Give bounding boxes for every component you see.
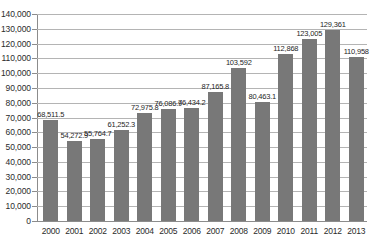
y-axis-tick xyxy=(32,162,37,163)
y-axis-tick-label: 0 xyxy=(26,216,31,226)
x-axis-labels: (年) 200020012002200320042005200620072008… xyxy=(37,226,367,242)
y-axis-tick xyxy=(32,147,37,148)
bar-slot: 129,361 xyxy=(321,14,345,221)
bar[interactable] xyxy=(161,109,176,221)
bar[interactable] xyxy=(302,39,317,221)
y-axis-tick xyxy=(32,14,37,15)
x-axis-tick-label: 2013 xyxy=(345,226,369,236)
y-axis-tick-label: 50,000 xyxy=(6,142,31,152)
y-axis-tick xyxy=(32,221,37,222)
bar-slot: 103,592 xyxy=(227,14,251,221)
y-axis-tick-label: 120,000 xyxy=(1,39,31,49)
y-axis-tick xyxy=(32,177,37,178)
bar-chart: 140,000130,000120,000110,000100,00090,00… xyxy=(0,0,374,244)
bar-value-label: 80,463.1 xyxy=(248,92,276,101)
y-axis-tick-label: 100,000 xyxy=(1,68,31,78)
y-axis-tick xyxy=(32,88,37,89)
bar-value-label: 103,592 xyxy=(226,58,252,67)
bar[interactable] xyxy=(67,141,82,221)
bar-slot: 55,764.7 xyxy=(86,14,110,221)
y-axis-tick-label: 40,000 xyxy=(6,157,31,167)
bar-slot: 87,165.8 xyxy=(204,14,228,221)
bar[interactable] xyxy=(349,57,364,221)
bar[interactable] xyxy=(184,108,199,221)
bar[interactable] xyxy=(90,139,105,221)
bar-slot: 112,868 xyxy=(274,14,298,221)
bar-slot: 61,252.3 xyxy=(110,14,134,221)
bar[interactable] xyxy=(278,54,293,221)
gridline xyxy=(37,221,367,222)
bar-slot: 110,958 xyxy=(345,14,369,221)
bar-slot: 76,434.2 xyxy=(180,14,204,221)
bar-value-label: 112,868 xyxy=(273,44,298,53)
y-axis-tick-label: 70,000 xyxy=(6,113,31,123)
bar[interactable] xyxy=(325,30,340,221)
bar[interactable] xyxy=(255,102,270,221)
plot-area: 68,511.554,272.955,764.761,252.372,975.8… xyxy=(37,14,367,221)
x-axis-tick-label: 2005 xyxy=(157,226,181,236)
y-axis-tick xyxy=(32,73,37,74)
y-axis-tick-label: 140,000 xyxy=(1,9,31,19)
x-axis-tick-label: 2008 xyxy=(227,226,251,236)
bar-value-label: 110,958 xyxy=(344,47,369,56)
x-axis-tick-label: 2004 xyxy=(133,226,157,236)
y-axis-tick xyxy=(32,44,37,45)
x-axis-tick-label: 2007 xyxy=(204,226,228,236)
bar[interactable] xyxy=(43,120,58,221)
bar-value-label: 87,165.8 xyxy=(201,82,229,91)
y-axis-tick-label: 20,000 xyxy=(6,186,31,196)
bar-value-label: 123,005 xyxy=(296,29,322,38)
x-axis-tick-label: 2012 xyxy=(321,226,345,236)
y-axis-tick-label: 80,000 xyxy=(6,98,31,108)
y-axis-tick xyxy=(32,103,37,104)
x-axis-tick-label: 2006 xyxy=(180,226,204,236)
bar-slot: 80,463.1 xyxy=(251,14,275,221)
bar-value-label: 68,511.5 xyxy=(37,110,64,119)
y-axis-tick xyxy=(32,118,37,119)
bar-value-label: 129,361 xyxy=(320,20,346,29)
y-axis-tick-label: 90,000 xyxy=(6,83,31,93)
x-axis-tick-label: 2010 xyxy=(274,226,298,236)
x-axis-tick-label: 2001 xyxy=(63,226,87,236)
bar-slot: 54,272.9 xyxy=(63,14,87,221)
y-axis-tick-label: 30,000 xyxy=(6,172,31,182)
x-axis-tick-label: 2002 xyxy=(86,226,110,236)
x-axis-tick-label: 2009 xyxy=(251,226,275,236)
bar-slot: 123,005 xyxy=(298,14,322,221)
y-axis-tick xyxy=(32,206,37,207)
bar[interactable] xyxy=(231,68,246,221)
bar[interactable] xyxy=(208,92,223,221)
x-axis-tick-label: 2011 xyxy=(298,226,322,236)
bar[interactable] xyxy=(114,130,129,221)
y-axis-tick-label: 130,000 xyxy=(1,24,31,34)
bar-slot: 76,086.9 xyxy=(157,14,181,221)
bar-value-label: 76,434.2 xyxy=(178,98,206,107)
y-axis-tick-label: 110,000 xyxy=(2,53,31,63)
y-axis-labels: 140,000130,000120,000110,000100,00090,00… xyxy=(0,0,31,244)
bar-value-label: 61,252.3 xyxy=(107,120,135,129)
y-axis-tick xyxy=(32,191,37,192)
y-axis-tick xyxy=(32,132,37,133)
bar-value-label: 55,764.7 xyxy=(84,129,112,138)
bar-slot: 72,975.8 xyxy=(133,14,157,221)
bar[interactable] xyxy=(137,113,152,221)
y-axis-tick xyxy=(32,29,37,30)
bar-slot: 68,511.5 xyxy=(39,14,63,221)
y-axis-tick-label: 10,000 xyxy=(6,201,31,211)
y-axis-tick-label: 60,000 xyxy=(6,127,31,137)
x-axis-tick-label: 2000 xyxy=(39,226,63,236)
x-axis-tick-label: 2003 xyxy=(110,226,134,236)
y-axis-tick xyxy=(32,58,37,59)
